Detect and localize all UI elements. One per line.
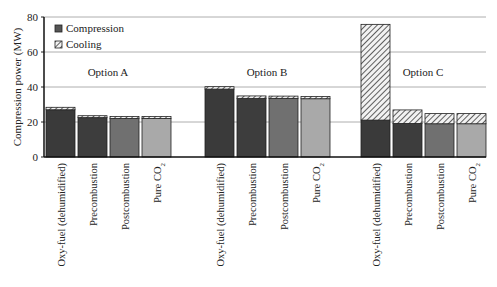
bar-compression <box>237 98 266 157</box>
category-label: Oxy-fuel (dehumidified) <box>371 163 383 267</box>
bar-cooling <box>457 114 486 124</box>
category-label: Postcombustion <box>435 162 446 230</box>
bar-cooling <box>269 96 298 98</box>
bar-compression <box>361 120 390 157</box>
legend-label-compression: Compression <box>66 22 125 34</box>
bar-compression <box>269 98 298 157</box>
bar-cooling <box>142 116 171 118</box>
bar-compression <box>78 118 107 157</box>
stacked-bar-chart: 020406080Oxy-fuel (dehumidified)Precombu… <box>0 0 497 287</box>
bar-cooling <box>301 96 330 98</box>
legend-swatch-cooling <box>55 41 62 48</box>
bar-compression <box>205 89 234 157</box>
group-label: Option A <box>88 66 129 78</box>
bar-cooling <box>237 96 266 98</box>
bar-cooling <box>205 87 234 89</box>
legend: CompressionCooling <box>47 19 142 50</box>
legend-label-cooling: Cooling <box>66 38 102 50</box>
y-tick-label: 40 <box>27 81 39 93</box>
y-tick-label: 60 <box>27 46 39 58</box>
bar-compression <box>46 110 75 157</box>
bar-cooling <box>361 24 390 120</box>
category-label: Precombustion <box>403 162 414 226</box>
bar-compression <box>142 119 171 158</box>
bar-cooling <box>425 114 454 124</box>
category-label: Precombustion <box>88 162 99 226</box>
y-tick-label: 80 <box>27 11 39 23</box>
group-label: Option C <box>403 66 444 78</box>
bar-compression <box>110 119 139 158</box>
bar-compression <box>301 99 330 157</box>
category-label: Oxy-fuel (dehumidified) <box>215 163 227 267</box>
category-label: Precombustion <box>247 162 258 226</box>
category-label: Postcombustion <box>120 162 131 230</box>
bar-compression <box>425 124 454 157</box>
bar-cooling <box>78 116 107 118</box>
y-axis-label: Compression power (MW) <box>11 27 24 146</box>
y-tick-label: 20 <box>27 116 39 128</box>
category-label: Pure CO2 <box>152 163 167 203</box>
y-tick-label: 0 <box>33 151 39 163</box>
category-label: Pure CO2 <box>467 163 482 203</box>
bar-compression <box>393 123 422 157</box>
category-label: Pure CO2 <box>311 163 326 203</box>
legend-swatch-compression <box>55 25 62 32</box>
group-label: Option B <box>247 66 288 78</box>
bar-cooling <box>393 110 422 123</box>
bar-cooling <box>46 107 75 109</box>
category-label: Postcombustion <box>279 162 290 230</box>
bar-cooling <box>110 116 139 118</box>
bar-compression <box>457 124 486 157</box>
category-label: Oxy-fuel (dehumidified) <box>56 163 68 267</box>
